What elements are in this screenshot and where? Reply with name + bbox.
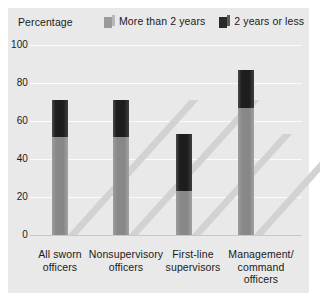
x-label-line1: Nonsupervisory <box>88 248 164 261</box>
x-label-nonsupervisory-officers: Nonsupervisory officers <box>88 248 164 273</box>
y-tick-0: 0 <box>8 229 28 240</box>
bar-shadow-4 <box>254 70 317 235</box>
bar-segment-2-years-or-less <box>238 70 254 108</box>
x-label-line3: officers <box>223 273 299 286</box>
x-label-line1: First-line <box>157 248 229 261</box>
gridline-100 <box>30 45 302 46</box>
x-label-management-command-officers: Management/ command officers <box>223 248 299 286</box>
y-tick-60: 60 <box>8 115 28 126</box>
bar-segment-more-than-2-years <box>238 108 254 235</box>
y-tick-80: 80 <box>8 77 28 88</box>
x-axis-baseline <box>30 235 302 236</box>
bar-segment-more-than-2-years <box>52 137 68 235</box>
x-label-line1: All sworn <box>24 248 96 261</box>
y-tick-20: 20 <box>8 191 28 202</box>
bar-management-command-officers <box>238 70 254 235</box>
x-axis-labels: All sworn officers Nonsupervisory office… <box>8 248 309 293</box>
x-label-line2: supervisors <box>157 261 229 274</box>
bar-all-sworn-officers <box>52 100 68 235</box>
stacked-bar-chart: Percentage More than 2 years 2 years or … <box>0 0 317 301</box>
x-label-line2: officers <box>88 261 164 274</box>
bar-first-line-supervisors <box>176 134 192 235</box>
gridline-80 <box>30 83 302 84</box>
bar-nonsupervisory-officers <box>113 100 129 235</box>
y-tick-40: 40 <box>8 153 28 164</box>
x-label-line2: command <box>223 261 299 274</box>
x-label-all-sworn-officers: All sworn officers <box>24 248 96 273</box>
bar-segment-more-than-2-years <box>113 137 129 235</box>
y-tick-100: 100 <box>8 39 28 50</box>
bar-segment-2-years-or-less <box>52 100 68 137</box>
bar-segment-more-than-2-years <box>176 191 192 235</box>
bar-segment-2-years-or-less <box>113 100 129 137</box>
x-label-line1: Management/ <box>223 248 299 261</box>
chart-panel: Percentage More than 2 years 2 years or … <box>8 8 309 293</box>
bar-segment-2-years-or-less <box>176 134 192 191</box>
x-label-line2: officers <box>24 261 96 274</box>
x-label-first-line-supervisors: First-line supervisors <box>157 248 229 273</box>
gridline-60 <box>30 121 302 122</box>
